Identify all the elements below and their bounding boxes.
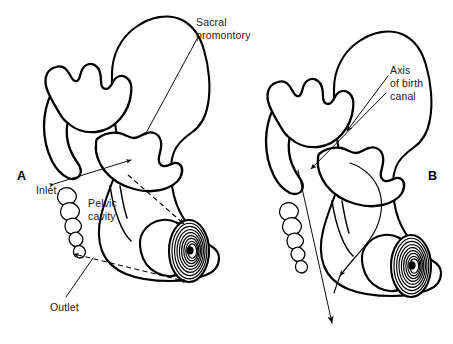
pubic-symphysis-b bbox=[391, 235, 431, 297]
panel-letter-a: A bbox=[17, 169, 26, 183]
pubic-symphysis-a bbox=[169, 220, 209, 282]
label-axis-line2: of birth bbox=[390, 77, 423, 89]
pelvis-diagram: A B Sacral promontory Inlet Pelvic cavit… bbox=[0, 0, 453, 344]
label-pelvic-cavity-line1: Pelvic bbox=[88, 197, 117, 209]
label-axis-line1: Axis bbox=[390, 64, 410, 76]
label-pelvic-cavity-line2: cavity bbox=[88, 210, 116, 222]
panel-letter-b: B bbox=[428, 169, 437, 183]
label-outlet: Outlet bbox=[50, 301, 79, 313]
label-sacral-promontory-line1: Sacral bbox=[196, 16, 227, 28]
label-axis-line3: canal bbox=[390, 90, 416, 102]
label-sacral-promontory-line2: promontory bbox=[196, 29, 251, 41]
label-pelvic-cavity: Pelvic cavity bbox=[88, 197, 117, 222]
label-inlet: Inlet bbox=[36, 184, 57, 196]
